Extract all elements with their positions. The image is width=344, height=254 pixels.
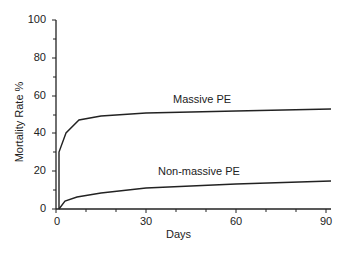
y-axis-label: Mortality Rate % <box>13 62 27 182</box>
x-tick-label: 60 <box>224 215 248 227</box>
x-axis-label: Days <box>166 228 191 240</box>
y-tick-label: 100 <box>20 13 46 25</box>
series-label-massive-pe: Massive PE <box>173 93 231 105</box>
series-massive-pe-line <box>59 109 331 209</box>
mortality-chart: 100 80 60 40 20 0 0 30 60 90 Mortality R… <box>0 0 344 254</box>
y-tick-label: 0 <box>20 202 46 214</box>
series-nonmassive-pe-line <box>59 181 331 209</box>
x-tick-label: 0 <box>45 215 69 227</box>
x-tick-label: 90 <box>314 215 338 227</box>
series-label-nonmassive-pe: Non-massive PE <box>158 165 240 177</box>
x-tick-label: 30 <box>134 215 158 227</box>
